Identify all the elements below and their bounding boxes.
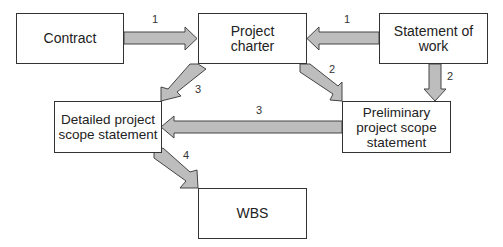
arrow-preliminary-to-detailed — [161, 116, 342, 138]
node-preliminary-scope: Preliminary project scope statement — [342, 101, 451, 153]
arrow-detailed-to-wbs — [154, 148, 198, 188]
node-label: Contract — [44, 31, 97, 46]
node-contract: Contract — [16, 13, 124, 64]
edge-label-detailed-wbs: 4 — [183, 149, 189, 161]
node-label: Detailed project scope statement — [58, 112, 158, 142]
node-detailed-scope: Detailed project scope statement — [54, 101, 162, 153]
node-statement-of-work: Statement of work — [379, 13, 488, 64]
node-label: Statement of work — [388, 24, 479, 54]
node-label: Project charter — [221, 24, 284, 54]
arrow-contract-to-charter — [124, 27, 197, 50]
node-wbs: WBS — [198, 188, 307, 239]
edge-label-sow-preliminary: 2 — [447, 70, 453, 82]
edge-label-sow-charter: 1 — [344, 13, 350, 25]
edge-label-preliminary-detailed: 3 — [256, 104, 262, 116]
edge-label-charter-preliminary: 2 — [329, 63, 335, 75]
edge-label-charter-detailed: 3 — [195, 83, 201, 95]
node-label: Preliminary project scope statement — [351, 105, 442, 150]
node-project-charter: Project charter — [198, 13, 307, 64]
arrow-sow-to-charter — [307, 27, 379, 50]
arrow-sow-to-preliminary — [424, 64, 446, 101]
node-label: WBS — [237, 206, 269, 221]
edge-label-contract-charter: 1 — [152, 13, 158, 25]
arrow-charter-to-preliminary — [300, 64, 342, 101]
